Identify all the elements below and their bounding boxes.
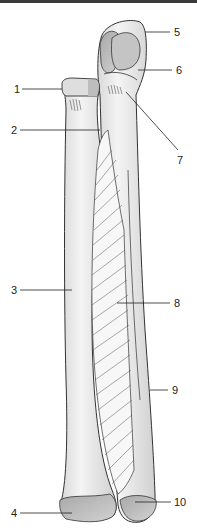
label-5: 5 (174, 27, 180, 38)
label-6: 6 (176, 65, 182, 76)
forearm-bones-diagram (0, 0, 197, 532)
label-1: 1 (14, 84, 20, 95)
label-10: 10 (174, 497, 186, 508)
label-4: 4 (11, 508, 17, 519)
label-8: 8 (174, 298, 180, 309)
label-2: 2 (11, 125, 17, 136)
label-3: 3 (11, 285, 17, 296)
distal-radius-surface (60, 494, 117, 522)
label-9: 9 (172, 385, 178, 396)
label-7: 7 (177, 155, 183, 166)
